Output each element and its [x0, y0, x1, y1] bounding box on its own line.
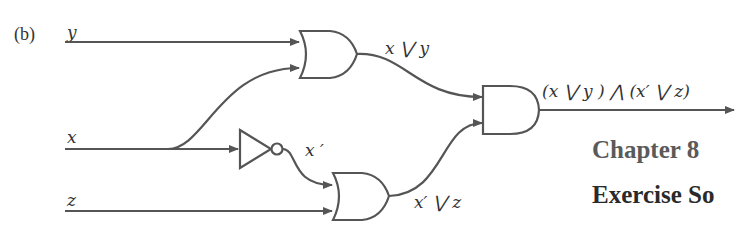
- input-label-z: z: [66, 190, 77, 210]
- not-output-label: x ′: [305, 140, 324, 160]
- wire-x-branch: [168, 68, 299, 149]
- chapter-heading: Chapter 8: [592, 136, 699, 164]
- exercise-heading: Exercise So: [592, 181, 714, 209]
- or1-output-label: x ⋁ y: [385, 38, 429, 58]
- input-label-y: y: [66, 22, 77, 42]
- not-gate: [240, 130, 271, 168]
- or-gate-1: [300, 31, 357, 78]
- or-gate-2: [333, 173, 389, 220]
- or2-output-label: x′ ⋁ z: [414, 192, 462, 212]
- input-label-x: x: [67, 127, 77, 147]
- wire-or2-out: [389, 123, 482, 196]
- and-gate: [483, 86, 539, 134]
- not-gate-bubble: [272, 144, 283, 155]
- wire-or1-out: [357, 54, 482, 97]
- part-label: (b): [14, 24, 35, 45]
- and-output-label: (x ⋁ y ) ⋀ (x′ ⋁ z): [542, 81, 690, 101]
